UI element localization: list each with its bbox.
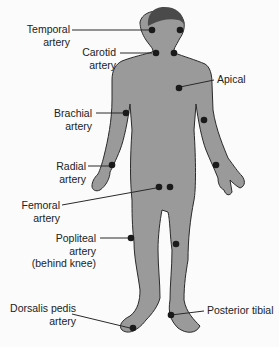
label-line: artery <box>27 36 70 49</box>
label-line: Apical <box>217 73 246 86</box>
carotid-pulse-point-right[interactable] <box>171 50 178 57</box>
label-temporal-artery: Temporal artery <box>27 23 70 48</box>
label-line: artery <box>21 212 60 225</box>
radial-pulse-point-right[interactable] <box>213 162 220 169</box>
label-line: Dorsalis pedis <box>10 302 76 315</box>
label-brachial-artery: Brachial artery <box>54 107 92 132</box>
temporal-pulse-point-right[interactable] <box>177 27 184 34</box>
label-line: artery <box>54 120 92 133</box>
label-line: artery <box>10 315 76 328</box>
dorsalis-line <box>72 314 130 328</box>
popliteal-pulse-point[interactable] <box>128 235 135 242</box>
apical-pulse-point[interactable] <box>176 85 183 92</box>
label-line: artery <box>32 245 96 258</box>
dorsalis-pedis-pulse-point[interactable] <box>130 325 137 332</box>
label-line: (behind knee) <box>32 257 96 270</box>
label-femoral-artery: Femoral artery <box>21 199 60 224</box>
brachial-pulse-point-right[interactable] <box>201 117 208 124</box>
label-line: Radial <box>56 160 86 173</box>
label-line: artery <box>56 173 86 186</box>
radial-pulse-point-left[interactable] <box>109 162 116 169</box>
label-radial-artery: Radial artery <box>56 160 86 185</box>
label-popliteal-artery: Popliteal artery (behind knee) <box>32 232 96 270</box>
label-dorsalis-pedis-artery: Dorsalis pedis artery <box>10 302 76 327</box>
temporal-pulse-point-left[interactable] <box>149 27 156 34</box>
label-carotid-artery: Carotid artery <box>82 46 116 71</box>
femoral-pulse-point-left[interactable] <box>156 184 163 191</box>
label-line: Brachial <box>54 107 92 120</box>
carotid-pulse-point-left[interactable] <box>153 50 160 57</box>
body-figure <box>0 0 279 347</box>
popliteal-pulse-point-right[interactable] <box>173 241 180 248</box>
label-line: Popliteal <box>32 232 96 245</box>
label-apical: Apical <box>217 73 246 86</box>
posterior-tibial-pulse-point[interactable] <box>168 312 175 319</box>
label-line: Carotid <box>82 46 116 59</box>
label-posterior-tibial: Posterior tibial <box>207 304 274 317</box>
femoral-pulse-point-right[interactable] <box>167 184 174 191</box>
brachial-pulse-point-left[interactable] <box>123 110 130 117</box>
label-line: Posterior tibial <box>207 304 274 317</box>
label-line: artery <box>82 59 116 72</box>
label-line: Femoral <box>21 199 60 212</box>
label-line: Temporal <box>27 23 70 36</box>
